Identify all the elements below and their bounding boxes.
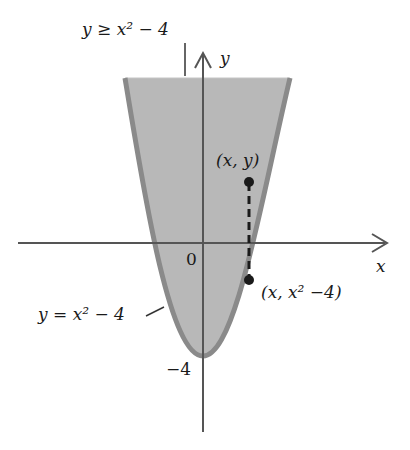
curve-equation-label: y = x² − 4 — [37, 304, 125, 324]
y-axis-label: y — [219, 48, 230, 68]
inequality-title: y ≥ x² − 4 — [81, 19, 169, 39]
point-lower-label: (x, x² −4) — [261, 282, 342, 302]
point-lower — [244, 275, 254, 285]
curve-leader-line — [146, 307, 164, 316]
point-upper-label: (x, y) — [216, 150, 259, 170]
y-tick-minus-4: −4 — [166, 359, 191, 379]
point-upper — [244, 177, 254, 187]
x-axis-label: x — [376, 256, 386, 276]
inequality-graph: y ≥ x² − 4 y x 0 −4 y = x² − 4 (x, y) (x… — [0, 0, 410, 450]
origin-label: 0 — [186, 249, 197, 269]
